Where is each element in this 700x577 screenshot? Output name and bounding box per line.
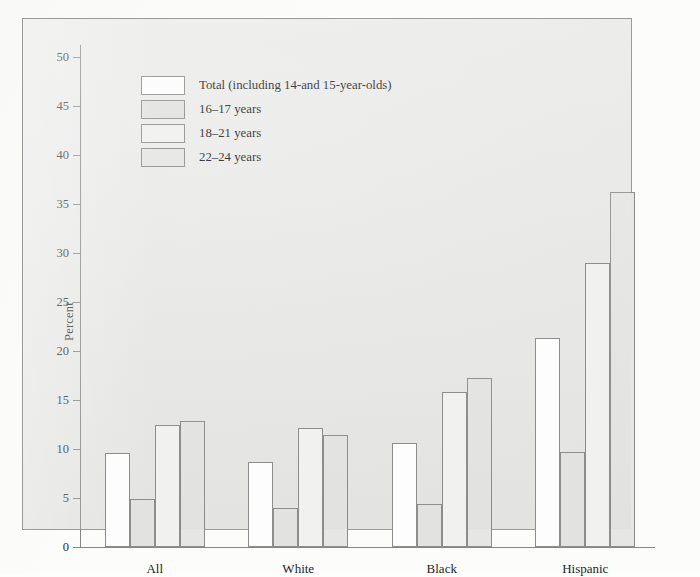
- y-tick-label: 50: [57, 51, 70, 64]
- legend-item-0: Total (including 14-and 15-year-olds): [141, 74, 392, 97]
- bar-white-series-0: [248, 462, 273, 547]
- y-tick-mark: [73, 351, 81, 352]
- legend-swatch-1: [141, 100, 185, 119]
- bar-all-series-2: [155, 425, 180, 547]
- bar-white-series-1: [273, 508, 298, 547]
- y-tick-label: 45: [57, 100, 70, 113]
- legend-item-2: 18–21 years: [141, 122, 392, 145]
- y-tick-label: 35: [57, 198, 70, 211]
- y-tick-label: 40: [57, 149, 70, 162]
- legend-item-3: 22–24 years: [141, 146, 392, 169]
- bar-black-series-1: [417, 504, 442, 547]
- y-tick-mark: [73, 547, 81, 548]
- legend-label-0: Total (including 14-and 15-year-olds): [199, 79, 392, 92]
- bar-all-series-1: [130, 499, 155, 547]
- category-label-black: Black: [427, 561, 457, 577]
- bar-all-series-3: [180, 421, 205, 547]
- bar-hispanic-series-0: [535, 338, 560, 547]
- category-label-white: White: [282, 561, 314, 577]
- y-tick-mark: [73, 400, 81, 401]
- y-tick-mark: [73, 204, 81, 205]
- y-tick-label: 30: [57, 247, 70, 260]
- bar-hispanic-series-1: [560, 452, 585, 547]
- bar-group-black: [392, 57, 492, 547]
- bar-hispanic-series-2: [585, 263, 610, 547]
- legend-swatch-0: [141, 76, 185, 95]
- bar-black-series-3: [467, 378, 492, 547]
- bar-black-series-0: [392, 443, 417, 547]
- category-label-hispanic: Hispanic: [562, 561, 608, 577]
- bar-white-series-2: [298, 428, 323, 547]
- bar-all-series-0: [105, 453, 130, 547]
- y-axis-title: Percent: [62, 302, 77, 341]
- y-tick-mark: [73, 106, 81, 107]
- bar-white-series-3: [323, 435, 348, 547]
- legend-swatch-2: [141, 124, 185, 143]
- y-tick-mark: [73, 449, 81, 450]
- y-tick-label: 10: [57, 443, 70, 456]
- y-tick-label: 5: [63, 492, 69, 505]
- bar-hispanic-series-3: [610, 192, 635, 547]
- legend-swatch-3: [141, 148, 185, 167]
- legend-label-1: 16–17 years: [199, 103, 261, 116]
- y-tick-mark: [73, 57, 81, 58]
- chart-panel: 05101520253035404550 Percent AllWhiteBla…: [22, 18, 632, 530]
- legend-label-3: 22–24 years: [199, 151, 261, 164]
- y-tick-label: 20: [57, 345, 70, 358]
- y-axis-line: [80, 45, 81, 547]
- y-tick-label: 15: [57, 394, 70, 407]
- bar-black-series-2: [442, 392, 467, 547]
- chart-legend: Total (including 14-and 15-year-olds)16–…: [141, 74, 392, 170]
- bar-group-hispanic: [535, 57, 635, 547]
- category-label-all: All: [146, 561, 163, 577]
- y-tick-mark: [73, 155, 81, 156]
- y-tick-label: 0: [63, 541, 69, 554]
- legend-item-1: 16–17 years: [141, 98, 392, 121]
- y-tick-mark: [73, 253, 81, 254]
- y-tick-mark: [73, 498, 81, 499]
- legend-label-2: 18–21 years: [199, 127, 261, 140]
